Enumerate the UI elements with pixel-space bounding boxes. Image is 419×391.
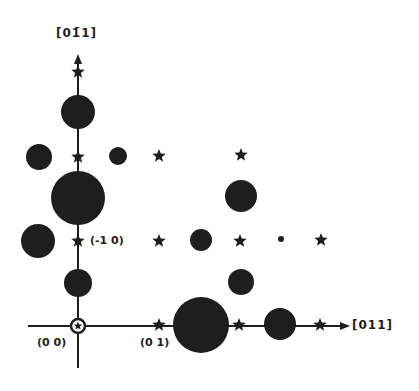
reflection-spot bbox=[61, 95, 95, 129]
point-label-0-1: (0 1) bbox=[140, 337, 169, 348]
horizontal-axis-label: [011] bbox=[352, 319, 393, 331]
origin-marker bbox=[71, 319, 85, 333]
star-icon bbox=[152, 234, 165, 247]
reflection-spot bbox=[64, 269, 92, 297]
star-icon bbox=[232, 318, 245, 331]
reflection-spot bbox=[109, 147, 127, 165]
reflection-spot bbox=[173, 297, 229, 353]
reflection-spot bbox=[264, 308, 296, 340]
reflection-spot bbox=[225, 180, 257, 212]
star-icon bbox=[152, 318, 165, 331]
reflection-spot bbox=[278, 236, 284, 242]
vertical-axis-label: [01̄1] bbox=[56, 27, 97, 39]
lattice-stars bbox=[71, 65, 327, 331]
reflection-spot bbox=[190, 229, 212, 251]
point-label-minus1-0: (-1 0) bbox=[90, 235, 124, 246]
star-icon bbox=[234, 148, 247, 161]
reflection-spot bbox=[21, 224, 55, 258]
star-icon bbox=[313, 318, 326, 331]
star-icon bbox=[152, 149, 165, 162]
horizontal-axis-arrowhead bbox=[340, 322, 350, 330]
star-icon bbox=[233, 234, 246, 247]
reflection-spots bbox=[21, 95, 296, 353]
origin-label: (0 0) bbox=[37, 337, 66, 348]
diffraction-diagram bbox=[0, 0, 419, 391]
star-icon bbox=[314, 233, 327, 246]
reflection-spot bbox=[51, 171, 105, 225]
reflection-spot bbox=[228, 269, 254, 295]
vertical-axis-arrowhead bbox=[74, 54, 82, 64]
reflection-spot bbox=[26, 144, 52, 170]
